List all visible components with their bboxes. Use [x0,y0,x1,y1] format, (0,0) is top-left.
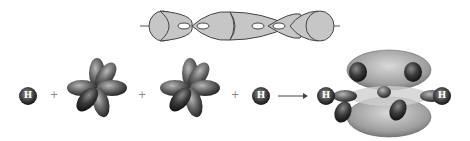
carbon-orbitals-1 [67,58,127,119]
orbital-diagram [0,0,470,141]
plus-operator-1: + [50,89,58,100]
h-label-right: H [437,90,447,100]
sigma-bond-framework [140,11,340,41]
product-molecule [317,50,451,137]
carbon-orbitals-2 [160,58,220,119]
plus-operator-3: + [231,89,239,100]
h-label-1: H [23,90,33,100]
h-label-2: H [256,90,266,100]
h-label-left: H [321,90,331,100]
reaction-arrow [278,93,308,99]
plus-operator-2: + [138,89,146,100]
